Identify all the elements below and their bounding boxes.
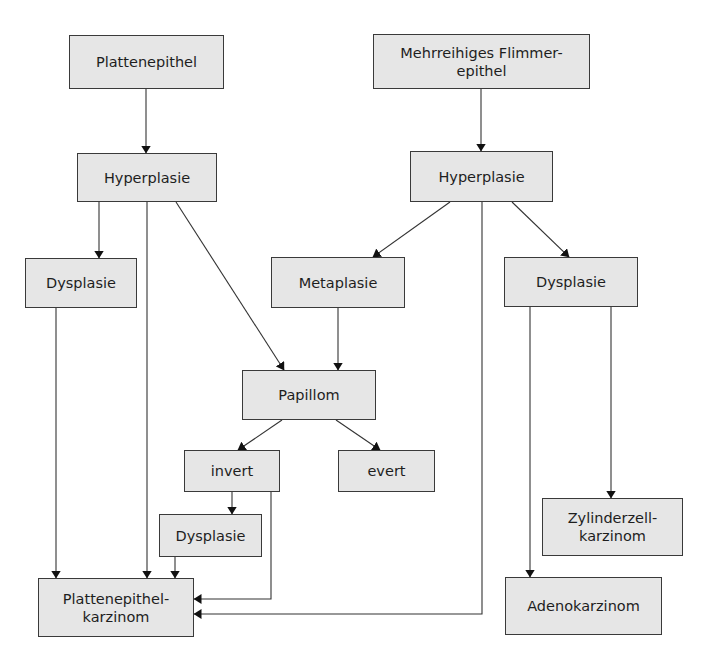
node-zylinderzellkarzinom: Zylinderzell- karzinom	[542, 498, 683, 556]
node-adenokarzinom: Adenokarzinom	[505, 577, 662, 635]
node-metaplasie: Metaplasie	[271, 257, 405, 308]
diagram-canvas: Plattenepithel Mehrreihiges Flimmer- epi…	[0, 0, 708, 660]
node-papillom: Papillom	[242, 370, 376, 420]
node-dysplasie-left: Dysplasie	[25, 258, 137, 308]
node-hyperplasie-right: Hyperplasie	[410, 151, 553, 202]
node-invert: invert	[184, 450, 280, 492]
node-dysplasie-small: Dysplasie	[159, 514, 262, 557]
edge-hyperplasie_left-to-papillom	[176, 202, 284, 370]
node-hyperplasie-left: Hyperplasie	[77, 153, 217, 202]
edge-papillom-to-evert	[336, 420, 380, 450]
node-dysplasie-right: Dysplasie	[504, 257, 638, 307]
node-evert: evert	[338, 450, 435, 492]
node-plattenepithel: Plattenepithel	[69, 35, 224, 89]
edges-layer	[0, 0, 708, 660]
node-plattenepithelkarzinom: Plattenepithel- karzinom	[38, 578, 194, 637]
node-flimmerepithel: Mehrreihiges Flimmer- epithel	[373, 34, 590, 89]
edge-hyperplasie_right-to-dysplasie_right	[512, 202, 569, 257]
edge-hyperplasie_right-to-metaplasie	[373, 202, 450, 257]
edge-papillom-to-invert	[238, 420, 282, 450]
